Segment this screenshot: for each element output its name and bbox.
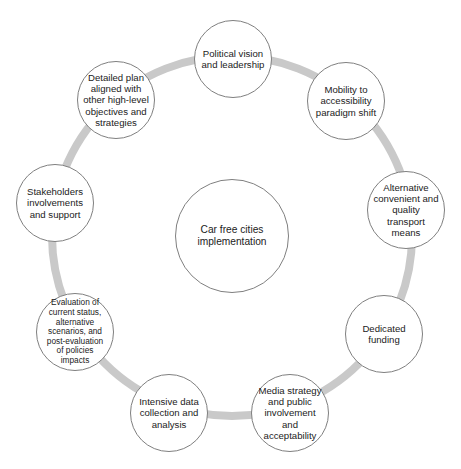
node-label: Dedicated funding <box>362 323 405 345</box>
node-mobility-accessibility: Mobility to accessibility paradigm shift <box>307 62 385 140</box>
node-media-strategy: Media strategy and public involvement an… <box>251 374 329 452</box>
node-data-collection: Intensive data collection and analysis <box>130 374 208 452</box>
center-node: Car free cities implementation <box>175 179 289 293</box>
node-evaluation: Evaluation of current status, alternativ… <box>36 293 114 371</box>
node-label: Political vision and leadership <box>202 48 265 70</box>
node-label: Detailed plan aligned with other high-le… <box>83 72 149 128</box>
node-label: Alternative convenient and quality trans… <box>373 182 438 238</box>
center-label: Car free cities implementation <box>197 224 266 248</box>
node-label: Stakeholders involvements and support <box>27 186 83 220</box>
node-label: Evaluation of current status, alternativ… <box>47 298 103 365</box>
cycle-diagram: Car free cities implementation Political… <box>0 0 461 469</box>
node-label: Intensive data collection and analysis <box>139 396 199 430</box>
node-stakeholders: Stakeholders involvements and support <box>16 164 94 242</box>
node-detailed-plan: Detailed plan aligned with other high-le… <box>77 61 155 139</box>
node-political-vision: Political vision and leadership <box>194 20 272 98</box>
node-dedicated-funding: Dedicated funding <box>345 295 423 373</box>
node-label: Media strategy and public involvement an… <box>259 385 322 441</box>
node-label: Mobility to accessibility paradigm shift <box>316 84 376 118</box>
node-alternative-transport: Alternative convenient and quality trans… <box>367 171 445 249</box>
